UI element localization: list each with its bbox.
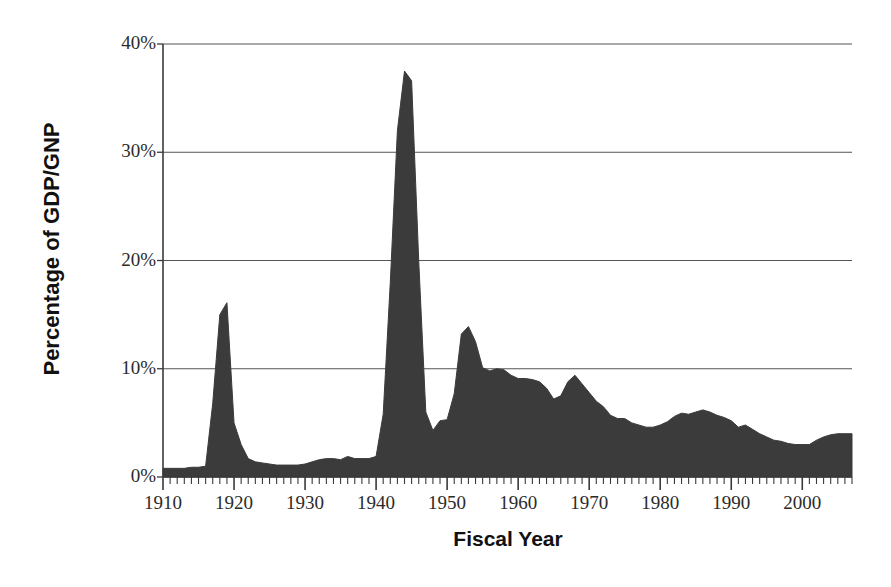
area-series — [163, 71, 852, 477]
chart-figure: Percentage of GDP/GNP Fiscal Year 0%10%2… — [0, 0, 891, 587]
area-fill — [163, 71, 852, 477]
gridlines — [163, 44, 852, 369]
plot-area — [0, 0, 891, 587]
